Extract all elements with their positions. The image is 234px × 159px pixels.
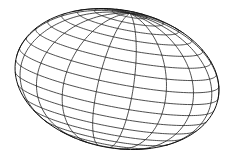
parallel-line [24, 98, 196, 134]
wireframe-ellipsoid [0, 0, 234, 159]
parallel-line [79, 140, 129, 150]
parallel-line [62, 14, 192, 45]
meridian-line [120, 13, 167, 149]
meridian-lines [16, 8, 219, 149]
parallel-line [45, 121, 169, 146]
parallel-line [18, 85, 207, 126]
figure [0, 0, 234, 159]
parallel-line [20, 48, 219, 93]
meridian-line [109, 13, 137, 147]
